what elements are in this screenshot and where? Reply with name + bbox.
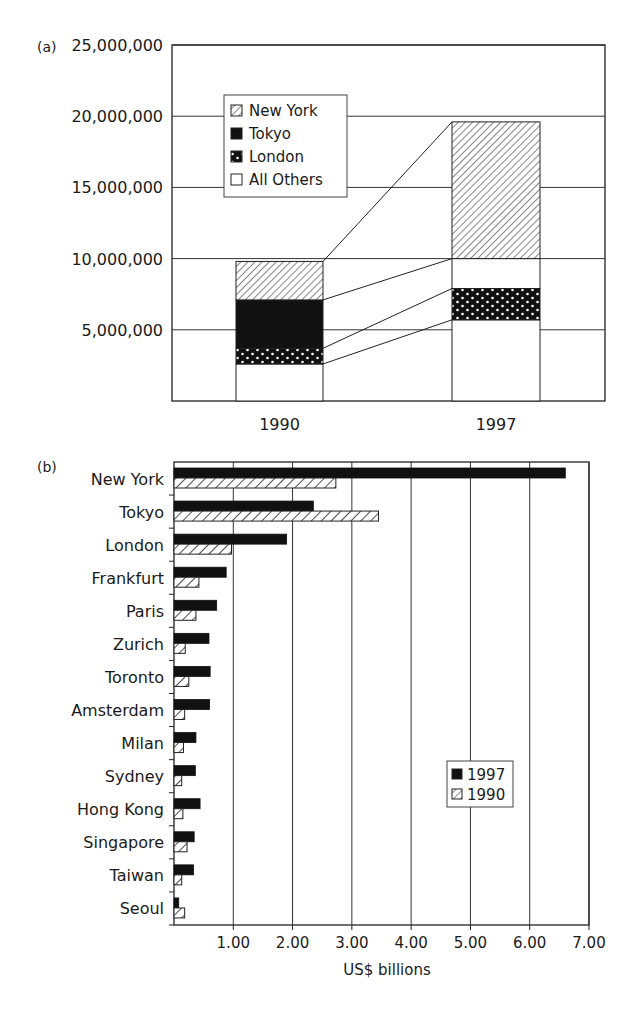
legend-swatch: [231, 128, 242, 139]
bar-1997: [174, 766, 195, 776]
bar-1990: [174, 842, 187, 852]
category-label: Paris: [126, 602, 164, 621]
category-label: Amsterdam: [71, 701, 164, 720]
bar-1997: [174, 733, 196, 743]
category-label: Singapore: [83, 833, 164, 852]
legend-swatch: [452, 789, 462, 799]
bar-1990: [174, 743, 183, 753]
y-tick-label: 25,000,000: [71, 36, 163, 55]
connector-line: [323, 289, 452, 349]
x-tick-label: 1990: [259, 415, 300, 434]
legend-swatch: [231, 151, 242, 162]
bar-segment: [236, 364, 323, 401]
bar-1990: [174, 643, 185, 653]
bar-1990: [174, 610, 196, 620]
bar-1990: [174, 544, 232, 554]
y-tick-label: 20,000,000: [71, 107, 163, 126]
category-label: Tokyo: [118, 503, 164, 522]
bar-1997: [174, 666, 210, 676]
stacked-bar-chart-a: (a)5,000,00010,000,00015,000,00020,000,0…: [37, 36, 605, 434]
bar-1997: [174, 633, 209, 643]
bar-segment: [452, 289, 540, 320]
bar-segment: [236, 261, 323, 299]
bar-1997: [174, 898, 179, 908]
bar-1997: [174, 865, 194, 875]
x-tick-label: 3.00: [335, 934, 368, 952]
bar-1990: [174, 875, 182, 885]
x-tick-label: 4.00: [394, 934, 427, 952]
y-tick-label: 10,000,000: [71, 250, 163, 269]
legend-label: 1990: [467, 786, 505, 804]
bar-1997: [174, 567, 226, 577]
legend-swatch: [231, 105, 242, 116]
bar-1990: [174, 511, 379, 521]
bar-segment: [452, 122, 540, 259]
category-label: Zurich: [113, 635, 164, 654]
bar-1990: [174, 577, 199, 587]
legend-b: 19971990: [447, 761, 513, 807]
bar-1997: [174, 501, 313, 511]
y-tick-label: 15,000,000: [71, 178, 163, 197]
y-tick-label: 5,000,000: [82, 321, 163, 340]
category-label: Milan: [121, 734, 164, 753]
legend-swatch: [231, 174, 242, 185]
bar-1990: [174, 478, 336, 488]
connector-line: [323, 320, 452, 364]
bar-1997: [174, 799, 200, 809]
x-axis-title: US$ billions: [343, 961, 431, 979]
connector-line: [323, 259, 452, 300]
plot-frame: [174, 462, 589, 925]
bar-1997: [174, 700, 210, 710]
legend-label: 1997: [467, 766, 505, 784]
x-tick-label: 5.00: [454, 934, 487, 952]
legend-label: London: [249, 148, 304, 166]
bar-1990: [174, 776, 182, 786]
category-label: Sydney: [105, 767, 164, 786]
x-tick-label: 6.00: [513, 934, 546, 952]
category-label: Seoul: [120, 899, 164, 918]
legend-label: All Others: [249, 171, 323, 189]
legend-a: New YorkTokyoLondonAll Others: [224, 95, 347, 197]
legend-label: Tokyo: [248, 125, 291, 143]
category-label: Hong Kong: [77, 800, 164, 819]
legend-label: New York: [249, 102, 318, 120]
bar-1990: [174, 809, 183, 819]
bar-1997: [174, 600, 217, 610]
category-label: London: [105, 536, 164, 555]
bar-segment: [236, 348, 323, 364]
x-tick-label: 1.00: [217, 934, 250, 952]
category-label: Frankfurt: [92, 569, 164, 588]
bar-1997: [174, 468, 565, 478]
bar-1990: [174, 908, 185, 918]
horizontal-bar-chart-b: (b)1.002.003.004.005.006.007.00US$ billi…: [37, 459, 606, 979]
panel-label-b: (b): [37, 459, 57, 475]
bar-1997: [174, 534, 287, 544]
bar-1997: [174, 832, 194, 842]
category-label: New York: [91, 470, 165, 489]
bar-segment: [452, 320, 540, 401]
bar-segment: [452, 259, 540, 289]
category-label: Taiwan: [109, 866, 164, 885]
x-tick-label: 1997: [476, 415, 517, 434]
x-tick-label: 7.00: [572, 934, 605, 952]
legend-swatch: [452, 769, 462, 779]
bar-1990: [174, 676, 189, 686]
panel-label-a: (a): [37, 39, 57, 55]
x-tick-label: 2.00: [276, 934, 309, 952]
bar-segment: [236, 300, 323, 348]
category-label: Toronto: [104, 668, 164, 687]
bar-1990: [174, 710, 185, 720]
chart-figure: (a)5,000,00010,000,00015,000,00020,000,0…: [0, 0, 638, 1011]
